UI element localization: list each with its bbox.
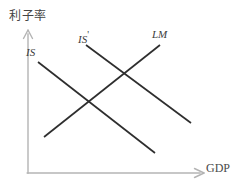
is-curve [38, 62, 155, 153]
y-axis-label: 利子率 [9, 6, 47, 24]
is-curve-label: IS [26, 46, 35, 58]
lm-curve-label: LM [152, 28, 167, 40]
diagram-canvas [0, 0, 239, 187]
lm-curve [44, 45, 160, 137]
x-axis-label: GDP [206, 161, 230, 176]
curves-group [38, 45, 191, 153]
is-prime-base-text: IS [78, 33, 87, 45]
is-lm-diagram: 利子率 GDP IS IS' LM [0, 0, 239, 187]
is-prime-curve-label: IS' [78, 29, 89, 45]
is-prime-mark: ' [87, 29, 89, 40]
axes-group [27, 34, 200, 173]
